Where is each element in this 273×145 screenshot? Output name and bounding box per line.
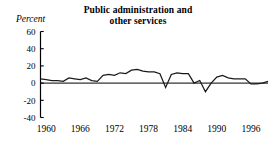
x-axis-tick-label: 1960 bbox=[37, 124, 56, 134]
x-axis-tick-labels: 1960196619721978198419901996 bbox=[37, 124, 261, 134]
y-axis-tick-label: -40 bbox=[24, 113, 36, 123]
chart-plot-area: 6040200-20-40 19601966197219781984199019… bbox=[0, 0, 273, 145]
y-axis-tick-label: 20 bbox=[27, 61, 37, 71]
data-series-line bbox=[41, 69, 269, 91]
y-axis-tick-label: -20 bbox=[24, 96, 36, 106]
x-axis-tick-label: 1966 bbox=[71, 124, 90, 134]
x-axis-tick-label: 1972 bbox=[105, 124, 124, 134]
y-axis-tick-label: 0 bbox=[31, 78, 36, 88]
x-axis-tick-label: 1978 bbox=[139, 124, 158, 134]
y-axis-tick-labels: 6040200-20-40 bbox=[24, 27, 37, 123]
x-axis-tick-label: 1990 bbox=[207, 124, 226, 134]
chart-figure: Public administration and other services… bbox=[0, 0, 273, 145]
x-axis-tick-label: 1984 bbox=[173, 124, 192, 134]
x-axis-tick-label: 1996 bbox=[241, 124, 260, 134]
y-axis-tick-label: 60 bbox=[27, 27, 37, 37]
y-axis-tick-label: 40 bbox=[27, 44, 37, 54]
